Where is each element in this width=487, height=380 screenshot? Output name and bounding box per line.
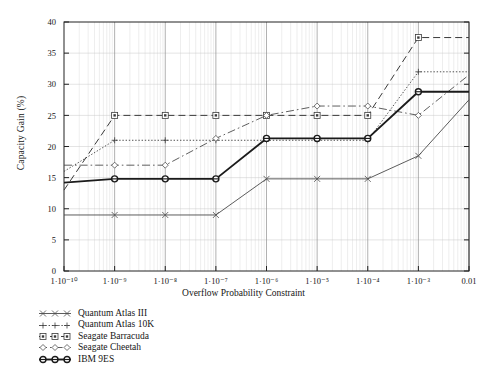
square-marker xyxy=(38,331,72,342)
circle-marker xyxy=(38,354,72,365)
circle-marker xyxy=(415,89,421,95)
axis-ticks: 05101520253035401·10⁻¹⁰1·10⁻⁹1·10⁻⁸1·10⁻… xyxy=(48,17,477,286)
legend-label: Quantum Atlas 10K xyxy=(72,319,154,330)
diamond-marker xyxy=(40,345,46,351)
diamond-marker xyxy=(52,345,58,351)
x-tick-label: 1·10⁻⁷ xyxy=(204,276,228,286)
plus-marker xyxy=(38,320,72,331)
circle-marker xyxy=(64,356,70,362)
x-tick-label: 0.01 xyxy=(462,276,477,286)
square-marker xyxy=(213,112,219,118)
square-marker xyxy=(415,35,421,41)
square-marker xyxy=(112,112,118,118)
legend-label: Quantum Atlas III xyxy=(72,308,147,319)
y-tick-label: 40 xyxy=(48,17,57,27)
square-marker xyxy=(162,112,168,118)
x-tick-label: 1·10⁻¹⁰ xyxy=(50,276,77,286)
square-marker xyxy=(52,333,58,339)
x-tick-label: 1·10⁻⁶ xyxy=(255,276,279,286)
legend-item: Quantum Atlas III xyxy=(38,308,268,319)
square-marker xyxy=(314,112,320,118)
y-tick-label: 0 xyxy=(52,266,56,276)
y-tick-label: 10 xyxy=(48,204,57,214)
plus-marker xyxy=(40,322,46,328)
x-marker xyxy=(38,308,72,319)
x-axis-title: Overflow Probability Constraint xyxy=(0,288,487,298)
diamond-marker xyxy=(38,342,72,353)
circle-marker xyxy=(162,176,168,182)
circle-marker xyxy=(52,356,58,362)
y-axis-title: Capacity Gain (%) xyxy=(16,78,26,188)
circle-marker xyxy=(112,176,118,182)
legend-item: Seagate Barracuda xyxy=(38,331,268,342)
chart-legend: Quantum Atlas IIIQuantum Atlas 10KSeagat… xyxy=(38,308,268,365)
circle-marker xyxy=(264,135,270,141)
x-tick-label: 1·10⁻⁵ xyxy=(305,276,329,286)
y-tick-label: 25 xyxy=(48,111,57,121)
square-marker xyxy=(64,333,70,339)
circle-marker xyxy=(365,135,371,141)
circle-marker xyxy=(40,356,46,362)
capacity-gain-line-chart: 05101520253035401·10⁻¹⁰1·10⁻⁹1·10⁻⁸1·10⁻… xyxy=(0,0,487,300)
plus-marker xyxy=(64,322,70,328)
x-tick-label: 1·10⁻⁹ xyxy=(103,276,127,286)
y-tick-label: 15 xyxy=(48,173,57,183)
y-tick-label: 35 xyxy=(48,48,57,58)
x-tick-label: 1·10⁻⁴ xyxy=(356,276,380,286)
legend-label: Seagate Barracuda xyxy=(72,331,149,342)
square-marker xyxy=(365,112,371,118)
legend-label: Seagate Cheetah xyxy=(72,342,141,353)
y-tick-label: 5 xyxy=(52,235,56,245)
legend-item: Seagate Cheetah xyxy=(38,342,268,353)
legend-item: IBM 9ES xyxy=(38,354,268,365)
legend-item: Quantum Atlas 10K xyxy=(38,319,268,330)
y-tick-label: 20 xyxy=(48,142,57,152)
diamond-marker xyxy=(64,345,70,351)
chart-page: 05101520253035401·10⁻¹⁰1·10⁻⁹1·10⁻⁸1·10⁻… xyxy=(0,0,487,380)
plus-marker xyxy=(52,322,58,328)
x-tick-label: 1·10⁻³ xyxy=(407,276,431,286)
legend-label: IBM 9ES xyxy=(72,354,114,365)
circle-marker xyxy=(213,176,219,182)
chart-area: 05101520253035401·10⁻¹⁰1·10⁻⁹1·10⁻⁸1·10⁻… xyxy=(0,0,487,300)
square-marker xyxy=(40,333,46,339)
y-tick-label: 30 xyxy=(48,79,57,89)
circle-marker xyxy=(314,135,320,141)
x-tick-label: 1·10⁻⁸ xyxy=(153,276,177,286)
